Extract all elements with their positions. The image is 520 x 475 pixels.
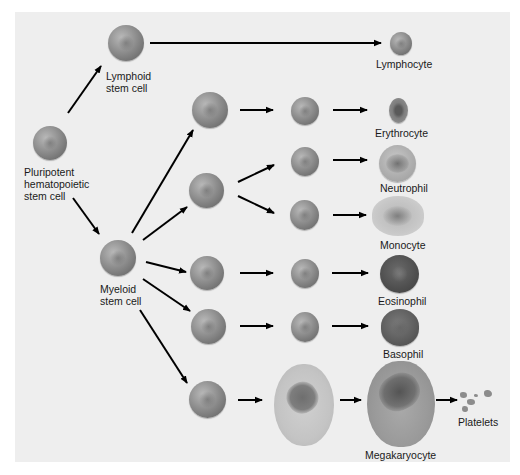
basophil-progenitor-cell [191, 309, 226, 344]
eosinophil-precursor-cell [291, 259, 319, 288]
granulocyte-monocyte-progenitor-cell [189, 173, 224, 208]
platelet [467, 399, 475, 405]
erythroid-progenitor-cell [192, 92, 228, 128]
eosinophil-progenitor-cell [190, 256, 224, 290]
erythrocyte-cell [389, 98, 408, 123]
megakaryoblast-cell [274, 364, 334, 446]
pluripotent-stem-cell [33, 126, 67, 160]
platelet [474, 394, 478, 397]
basophil-label: Basophil [383, 348, 423, 360]
monocyte-precursor-cell [290, 200, 319, 230]
neutrophil-label: Neutrophil [380, 182, 428, 194]
eosinophil-label: Eosinophil [378, 295, 426, 307]
myeloid-stem-cell [100, 240, 136, 276]
lymphoid-stem-cell [108, 25, 144, 61]
lymphocyte-label: Lymphocyte [376, 58, 432, 70]
erythroid-precursor-cell [291, 97, 319, 125]
eosinophil-cell [380, 255, 419, 293]
platelet [462, 406, 468, 412]
monocyte-label: Monocyte [380, 239, 426, 251]
platelet [460, 392, 467, 398]
basophil-precursor-cell [291, 312, 319, 342]
myeloid-stem-cell-label: Myeloid stem cell [100, 283, 141, 307]
neutrophil-cell [379, 145, 416, 182]
lineage-arrows [0, 0, 520, 475]
platelet [484, 390, 492, 397]
platelets-label: Platelets [458, 416, 498, 428]
megakaryocyte-cell [367, 361, 435, 447]
pluripotent-stem-cell-label: Pluripotent hematopoietic stem cell [24, 166, 89, 202]
lymphoid-stem-cell-label: Lymphoid stem cell [106, 70, 151, 94]
monocyte-cell [372, 196, 424, 236]
megakaryocyte-progenitor-cell [189, 381, 226, 418]
neutrophil-precursor-cell [291, 147, 319, 176]
lymphocyte-cell [390, 32, 412, 55]
basophil-cell [381, 309, 419, 346]
erythrocyte-label: Erythrocyte [375, 127, 428, 139]
megakaryocyte-label: Megakaryocyte [365, 449, 436, 461]
